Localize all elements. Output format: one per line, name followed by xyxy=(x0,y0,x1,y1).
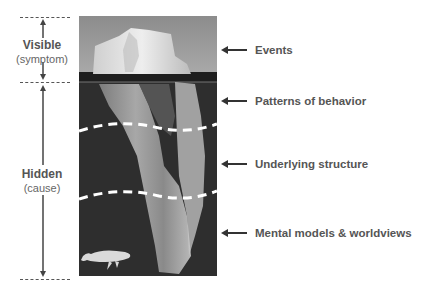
level-text: Events xyxy=(255,44,293,56)
hidden-title: Hidden xyxy=(2,167,82,181)
level-text: Mental models & worldviews xyxy=(255,227,412,239)
arrow-left-icon xyxy=(221,97,247,105)
level-label-patterns: Patterns of behavior xyxy=(221,95,366,107)
visible-label: Visible (symptom) xyxy=(2,38,82,66)
level-text: Patterns of behavior xyxy=(255,95,366,107)
arrow-left-icon xyxy=(221,46,247,54)
visible-subtitle: (symptom) xyxy=(2,52,82,66)
hidden-subtitle: (cause) xyxy=(2,181,82,195)
arrow-left-icon xyxy=(221,160,247,168)
level-text: Underlying structure xyxy=(255,158,368,170)
hidden-label: Hidden (cause) xyxy=(2,167,82,195)
arrow-left-icon xyxy=(221,229,247,237)
level-label-structure: Underlying structure xyxy=(221,158,368,170)
level-label-events: Events xyxy=(221,44,293,56)
level-label-mental-models: Mental models & worldviews xyxy=(221,227,412,239)
iceberg-illustration xyxy=(79,16,217,276)
iceberg-image xyxy=(79,16,217,276)
visible-title: Visible xyxy=(2,38,82,52)
